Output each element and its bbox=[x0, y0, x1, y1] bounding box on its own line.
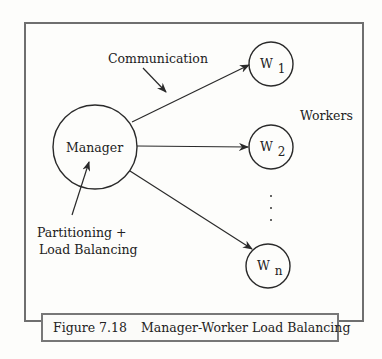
worker-2-label: W2 bbox=[260, 139, 286, 154]
edge-manager-w1 bbox=[132, 65, 249, 122]
worker-2-base: W bbox=[260, 139, 273, 154]
partitioning-label-line2: Load Balancing bbox=[39, 242, 137, 257]
figure-number: Figure 7.18 bbox=[53, 320, 127, 335]
edge-manager-w2 bbox=[137, 146, 248, 147]
communication-label: Communication bbox=[108, 51, 208, 66]
communication-pointer-arrow bbox=[143, 68, 166, 92]
worker-2-subscript: 2 bbox=[278, 145, 286, 159]
worker-n-label: Wn bbox=[257, 258, 283, 273]
figure-caption: Figure 7.18 Manager-Worker Load Balancin… bbox=[41, 313, 339, 342]
worker-n-subscript: n bbox=[275, 264, 283, 278]
edge-manager-wn bbox=[130, 171, 252, 249]
figure-title: Manager-Worker Load Balancing bbox=[141, 320, 351, 335]
ellipsis-dots bbox=[270, 195, 272, 221]
workers-group-label: Workers bbox=[300, 108, 353, 123]
worker-1-subscript: 1 bbox=[278, 62, 286, 76]
partitioning-label-line1: Partitioning + bbox=[37, 225, 126, 240]
worker-1-label: W1 bbox=[260, 56, 286, 71]
manager-label: Manager bbox=[66, 140, 123, 155]
worker-1-base: W bbox=[260, 56, 273, 71]
worker-n-base: W bbox=[257, 258, 270, 273]
